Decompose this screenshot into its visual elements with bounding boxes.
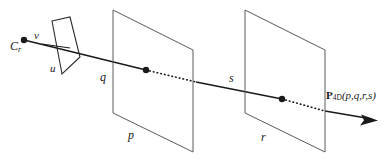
ray-segment-dotted-1 bbox=[146, 70, 196, 82]
image-plane-rs bbox=[245, 10, 325, 152]
label-ray-point-sub: 4D bbox=[333, 93, 342, 102]
label-camera-center-sub: r bbox=[18, 45, 21, 54]
label-ray-point-p4d: P4D(p,q,r,s) bbox=[326, 90, 376, 102]
image-plane-pq bbox=[113, 10, 193, 152]
ray-intersection-dot-1 bbox=[143, 67, 149, 73]
label-plane1-q: q bbox=[100, 71, 106, 83]
label-axis-u: u bbox=[50, 63, 56, 74]
label-camera-center: Cr bbox=[10, 40, 21, 54]
camera-center-dot bbox=[21, 37, 27, 43]
diagram-canvas bbox=[0, 0, 389, 162]
ray-segment-dotted-2 bbox=[282, 99, 325, 111]
label-ray-point-args: (p,q,r,s) bbox=[342, 89, 376, 101]
label-ray-point-main: P bbox=[326, 89, 333, 101]
ray-arrowhead bbox=[360, 115, 378, 126]
label-plane1-p: p bbox=[128, 129, 134, 141]
label-plane2-r: r bbox=[261, 131, 266, 143]
lightfield-ray-diagram: Cr v u q p s r P4D(p,q,r,s) bbox=[0, 0, 389, 162]
ray-segment-solid-2 bbox=[196, 82, 282, 99]
ray-intersection-dot-2 bbox=[279, 96, 285, 102]
label-plane2-s: s bbox=[229, 72, 234, 84]
label-camera-center-main: C bbox=[10, 39, 18, 53]
label-axis-v: v bbox=[34, 30, 39, 41]
